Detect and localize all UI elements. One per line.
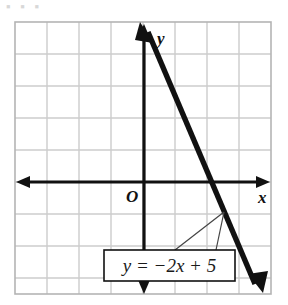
x-axis-label: x (257, 188, 267, 207)
graph-figure: ▪ ▪ ▪ (0, 0, 288, 305)
equation-label-box[interactable]: y = −2x + 5 (104, 250, 235, 281)
equation-text: y = −2x + 5 (121, 255, 216, 276)
coordinate-plane-svg: y = −2x + 5 y x O (0, 0, 288, 305)
origin-label: O (126, 187, 138, 206)
y-axis-label: y (155, 29, 165, 48)
